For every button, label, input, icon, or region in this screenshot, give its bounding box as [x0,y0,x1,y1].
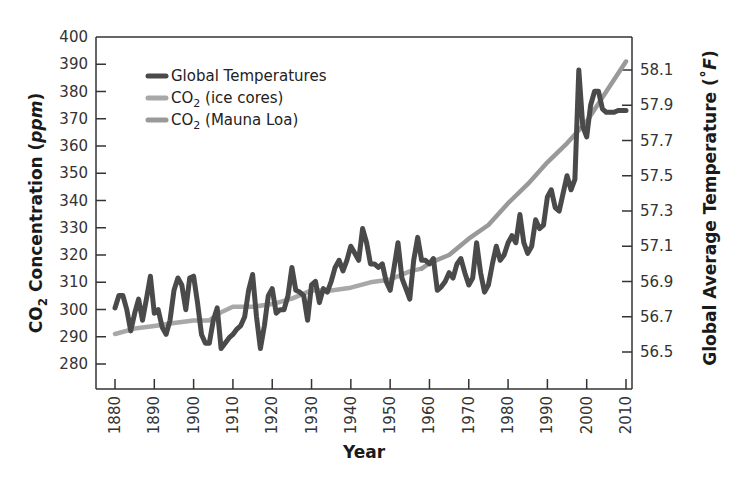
x-tick-label: 1940 [342,396,360,434]
x-tick-label: 1930 [303,396,321,434]
x-tick-label: 1880 [106,396,124,434]
x-axis-title: Year [342,442,386,462]
left-axis-title: CO2 Concentration (ppm) [26,93,50,333]
legend-label: CO2 (ice cores) [171,89,283,110]
x-tick-label: 1890 [145,396,163,434]
left-tick-label: 310 [59,273,88,291]
left-tick-label: 400 [59,28,88,46]
left-tick-label: 340 [59,192,88,210]
right-tick-label: 57.9 [640,96,673,114]
right-axis-title: Global Average Temperature (˚F) [699,50,720,365]
legend-label: Global Temperatures [171,67,327,85]
x-tick-label: 1980 [499,396,517,434]
right-tick-label: 57.3 [640,202,673,220]
x-tick-label: 1970 [460,396,478,434]
x-tick-label: 2000 [578,396,596,434]
left-tick-label: 330 [59,219,88,237]
left-tick-label: 290 [59,328,88,346]
x-tick-label: 2010 [617,396,635,434]
left-tick-label: 390 [59,55,88,73]
x-tick-label: 1900 [185,396,203,434]
right-axis-ticks: 56.556.756.957.157.357.557.757.958.1 [622,61,673,361]
right-tick-label: 56.5 [640,343,673,361]
left-tick-label: 350 [59,164,88,182]
x-tick-label: 1990 [538,396,556,434]
legend-label: CO2 (Mauna Loa) [171,111,298,132]
x-tick-label: 1920 [263,396,281,434]
right-tick-label: 56.9 [640,273,673,291]
right-tick-label: 56.7 [640,308,673,326]
left-tick-label: 380 [59,83,88,101]
legend: Global TemperaturesCO2 (ice cores)CO2 (M… [148,67,327,132]
right-tick-label: 57.7 [640,132,673,150]
left-tick-label: 370 [59,110,88,128]
x-tick-label: 1960 [420,396,438,434]
x-tick-label: 1950 [381,396,399,434]
right-tick-label: 58.1 [640,61,673,79]
x-axis-ticks: 1880189019001910192019301940195019601970… [106,379,635,434]
right-tick-label: 57.1 [640,237,673,255]
left-tick-label: 320 [59,246,88,264]
co2-temperature-chart: 1880189019001910192019301940195019601970… [0,0,744,480]
left-tick-label: 280 [59,355,88,373]
left-axis-ticks: 280290300310320330340350360370380390400 [59,28,106,373]
left-tick-label: 360 [59,137,88,155]
left-tick-label: 300 [59,301,88,319]
x-tick-label: 1910 [224,396,242,434]
right-tick-label: 57.5 [640,167,673,185]
